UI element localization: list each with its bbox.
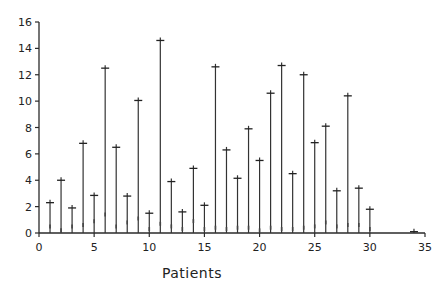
- y-tick-label: 6: [25, 148, 32, 161]
- data-point: [322, 123, 330, 233]
- y-tick-label: 14: [18, 42, 32, 55]
- data-point: [68, 205, 76, 233]
- data-point: [57, 177, 65, 233]
- data-point: [112, 144, 120, 233]
- data-point: [200, 202, 208, 233]
- data-point: [90, 192, 98, 233]
- y-tick-label: 8: [25, 122, 32, 135]
- x-tick-label: 15: [197, 241, 211, 254]
- y-tick-label: 10: [18, 95, 32, 108]
- chart-svg: 0246810121416 05101520253035 Patients: [0, 0, 448, 295]
- x-axis: 05101520253035: [36, 233, 433, 254]
- data-point: [145, 210, 153, 233]
- data-point: [167, 179, 175, 233]
- data-point: [156, 37, 164, 233]
- y-tick-label: 2: [25, 201, 32, 214]
- data-point: [123, 193, 131, 233]
- data-point: [344, 93, 352, 233]
- data-point: [79, 140, 87, 233]
- x-tick-label: 35: [418, 241, 432, 254]
- data-point: [289, 171, 297, 233]
- y-axis: 0246810121416: [18, 16, 39, 240]
- data-point: [178, 209, 186, 233]
- data-point: [211, 64, 219, 233]
- data-point: [245, 126, 253, 233]
- data-point: [46, 200, 54, 233]
- data-point: [311, 140, 319, 233]
- x-tick-label: 20: [253, 241, 267, 254]
- x-tick-label: 25: [308, 241, 322, 254]
- data-stems: [46, 37, 418, 233]
- data-point: [189, 165, 197, 233]
- y-tick-label: 16: [18, 16, 32, 29]
- data-point: [267, 90, 275, 233]
- data-point: [234, 175, 242, 233]
- y-tick-label: 0: [25, 227, 32, 240]
- x-axis-title: Patients: [162, 265, 222, 281]
- data-point: [366, 206, 374, 233]
- x-tick-label: 5: [91, 241, 98, 254]
- data-point: [300, 72, 308, 233]
- data-point: [222, 147, 230, 233]
- data-point: [101, 65, 109, 233]
- data-point: [355, 185, 363, 233]
- y-tick-label: 4: [25, 174, 32, 187]
- x-tick-label: 10: [142, 241, 156, 254]
- x-tick-label: 0: [36, 241, 43, 254]
- data-point: [278, 63, 286, 233]
- data-point: [333, 188, 341, 233]
- data-point: [134, 97, 142, 233]
- data-point: [256, 157, 264, 233]
- y-tick-label: 12: [18, 69, 32, 82]
- x-tick-label: 30: [363, 241, 377, 254]
